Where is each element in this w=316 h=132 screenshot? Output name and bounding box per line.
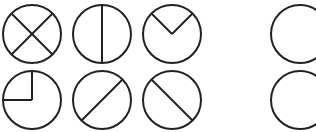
circle-v bbox=[143, 5, 201, 63]
circle-pattern-diagram bbox=[0, 0, 316, 132]
circle-empty-top bbox=[271, 5, 316, 63]
circle-vertical bbox=[73, 5, 131, 63]
circle-x bbox=[3, 5, 61, 63]
circle-empty-bottom bbox=[271, 71, 316, 129]
circle-quadrant bbox=[3, 71, 61, 129]
circle-slash bbox=[73, 71, 131, 129]
circle-backslash bbox=[143, 71, 201, 129]
